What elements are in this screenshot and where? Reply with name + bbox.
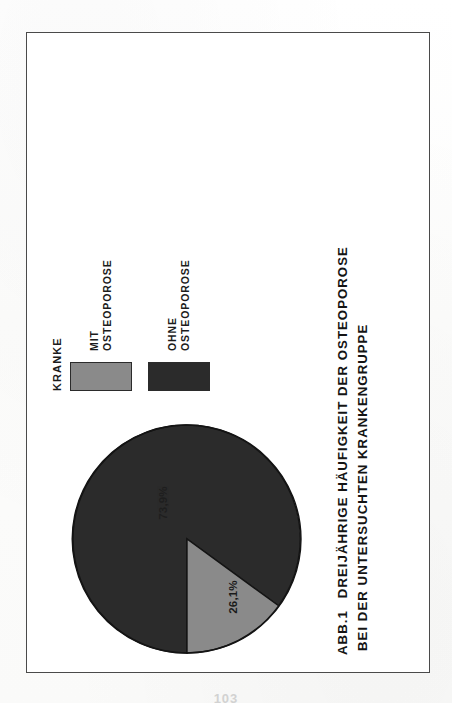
caption-text-line-1: DREIJÄHRIGE HÄUFIGKEIT DER OSTEOPOROSE	[335, 246, 350, 598]
legend-label-ohne-osteoporose: OHNE OSTEOPOROSE	[166, 259, 192, 351]
page-number: 103	[0, 691, 452, 703]
legend-title: KRANKE	[51, 211, 63, 391]
caption-text-line-2: BEI DER UNTERSUCHTEN KRANKENGRUPPE	[353, 55, 373, 655]
figure-caption: ABB.1DREIJÄHRIGE HÄUFIGKEIT DER OSTEOPOR…	[333, 55, 374, 655]
pie-chart: 26,1% 73,9%	[71, 423, 303, 655]
figure-frame-box: 26,1% 73,9% KRANKE MIT OSTEOPOROSE OHNE …	[26, 32, 430, 673]
chart-legend: KRANKE MIT OSTEOPOROSE OHNE OSTEOPOROSE	[51, 211, 226, 391]
pie-label-mit-osteoporose: 26,1%	[227, 580, 239, 614]
legend-swatch-mit-osteoporose	[70, 362, 132, 391]
caption-line-1: ABB.1DREIJÄHRIGE HÄUFIGKEIT DER OSTEOPOR…	[333, 55, 353, 655]
legend-item-mit-osteoporose: MIT OSTEOPOROSE	[70, 211, 132, 391]
pie-chart-svg: 26,1% 73,9%	[71, 423, 303, 655]
rotated-figure-canvas: 26,1% 73,9% KRANKE MIT OSTEOPOROSE OHNE …	[33, 43, 423, 663]
pie-label-ohne-osteoporose: 73,9%	[157, 486, 169, 520]
legend-swatch-ohne-osteoporose	[148, 362, 210, 391]
legend-item-ohne-osteoporose: OHNE OSTEOPOROSE	[148, 211, 210, 391]
figure-number: ABB.1	[335, 610, 350, 655]
legend-label-mit-osteoporose: MIT OSTEOPOROSE	[88, 259, 114, 351]
